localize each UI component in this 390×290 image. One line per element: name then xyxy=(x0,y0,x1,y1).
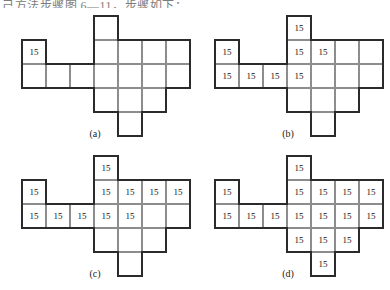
cell-value: 15 xyxy=(295,48,304,57)
net-cell xyxy=(311,112,335,136)
cube-net-figure-a: 15 xyxy=(22,16,190,136)
net-cell xyxy=(94,228,118,252)
outline-edge-bottom xyxy=(165,227,191,229)
net-cell: 15 xyxy=(94,204,118,228)
net-cell: 15 xyxy=(287,156,311,180)
cell-value: 15 xyxy=(295,24,304,33)
cell-value: 15 xyxy=(367,188,376,197)
cell-value: 15 xyxy=(319,236,328,245)
cell-value: 15 xyxy=(30,212,39,221)
cell-value: 15 xyxy=(343,236,352,245)
outline-edge-left xyxy=(21,203,23,229)
outline-edge-top xyxy=(238,203,264,205)
outline-edge-bottom xyxy=(286,251,312,253)
outline-edge-left xyxy=(117,251,119,277)
outline-edge-bottom xyxy=(117,135,143,137)
net-cell: 15 xyxy=(287,204,311,228)
outline-edge-right xyxy=(334,111,336,137)
outline-edge-left xyxy=(21,39,23,65)
net-cell xyxy=(46,64,70,88)
net-cell: 15 xyxy=(215,180,239,204)
outline-edge-top xyxy=(21,179,47,181)
net-cell: 15 xyxy=(311,204,335,228)
net-cell: 15 xyxy=(166,180,190,204)
net-cell xyxy=(118,228,142,252)
outline-edge-right xyxy=(45,39,47,65)
net-cell: 15 xyxy=(287,64,311,88)
cell-value: 15 xyxy=(295,72,304,81)
outline-edge-left xyxy=(93,179,95,205)
cell-value: 15 xyxy=(319,260,328,269)
net-cell: 15 xyxy=(94,156,118,180)
outline-edge-left xyxy=(21,63,23,89)
outline-edge-right xyxy=(45,179,47,205)
outline-edge-left xyxy=(286,15,288,41)
net-cell: 15 xyxy=(22,204,46,228)
outline-edge-right xyxy=(141,111,143,137)
net-cell: 15 xyxy=(94,180,118,204)
net-cell: 15 xyxy=(311,180,335,204)
outline-edge-top xyxy=(117,179,143,181)
outline-edge-bottom xyxy=(262,87,288,89)
cell-value: 15 xyxy=(247,72,256,81)
outline-edge-top xyxy=(69,203,95,205)
outline-edge-top xyxy=(45,203,71,205)
outline-edge-top xyxy=(165,179,191,181)
net-cell xyxy=(142,204,166,228)
net-cell xyxy=(287,88,311,112)
cell-value: 15 xyxy=(150,188,159,197)
outline-edge-bottom xyxy=(45,87,71,89)
net-cell: 15 xyxy=(263,204,287,228)
outline-edge-top xyxy=(141,179,167,181)
net-grid: 15 xyxy=(22,16,190,136)
figure-caption-d: (d) xyxy=(268,268,308,279)
net-cell xyxy=(94,16,118,40)
outline-edge-bottom xyxy=(286,111,312,113)
cell-value: 15 xyxy=(271,72,280,81)
net-cell: 15 xyxy=(287,16,311,40)
net-grid: 1515151515151515151515151515151515 xyxy=(215,156,383,276)
net-cell: 15 xyxy=(46,204,70,228)
cell-value: 15 xyxy=(319,212,328,221)
outline-edge-right xyxy=(117,15,119,41)
net-cell xyxy=(142,228,166,252)
cell-value: 15 xyxy=(30,188,39,197)
net-cell xyxy=(70,64,94,88)
cell-value: 15 xyxy=(102,212,111,221)
net-cell xyxy=(94,40,118,64)
net-cell xyxy=(142,40,166,64)
net-cell xyxy=(94,88,118,112)
net-cell: 15 xyxy=(22,180,46,204)
outline-edge-left xyxy=(310,111,312,137)
cell-value: 15 xyxy=(102,164,111,173)
outline-edge-bottom xyxy=(165,87,191,89)
net-cell xyxy=(142,88,166,112)
net-cell: 15 xyxy=(215,204,239,228)
net-cell: 15 xyxy=(142,180,166,204)
outline-edge-right xyxy=(334,251,336,277)
cell-value: 15 xyxy=(295,212,304,221)
net-cell: 15 xyxy=(287,180,311,204)
outline-edge-left xyxy=(93,39,95,65)
outline-edge-top xyxy=(310,39,336,41)
cell-value: 15 xyxy=(295,236,304,245)
outline-edge-bottom xyxy=(358,87,384,89)
outline-edge-top xyxy=(214,39,240,41)
net-cell xyxy=(311,64,335,88)
cube-net-figure-d: 1515151515151515151515151515151515 xyxy=(215,156,383,276)
net-cell: 15 xyxy=(359,204,383,228)
outline-edge-bottom xyxy=(69,87,95,89)
cell-value: 15 xyxy=(223,212,232,221)
net-cell xyxy=(166,40,190,64)
outline-edge-left xyxy=(21,179,23,205)
outline-edge-bottom xyxy=(358,227,384,229)
outline-edge-top xyxy=(93,155,119,157)
net-grid: 1515151515151515151515 xyxy=(22,156,190,276)
net-cell xyxy=(118,112,142,136)
net-cell xyxy=(359,40,383,64)
outline-edge-left xyxy=(286,227,288,253)
cell-value: 15 xyxy=(78,212,87,221)
cell-value: 15 xyxy=(343,212,352,221)
outline-edge-right xyxy=(117,155,119,181)
outline-edge-right xyxy=(189,203,191,229)
